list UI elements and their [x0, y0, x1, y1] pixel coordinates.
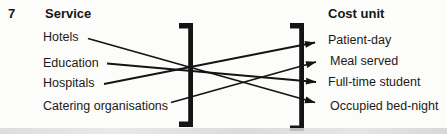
connection-line-hospitals — [104, 43, 315, 85]
connection-lines-group — [88, 39, 316, 103]
right-bracket — [290, 23, 304, 131]
service-item-hotels: Hotels — [43, 31, 78, 44]
cost-unit-item-meal-served: Meal served — [330, 55, 398, 68]
connection-line-education — [107, 64, 316, 83]
cost-unit-item-patient-day: Patient-day — [328, 34, 391, 47]
left-bracket — [179, 23, 193, 127]
service-item-education: Education — [43, 57, 99, 70]
cost-unit-column-header: Cost unit — [328, 7, 384, 21]
cost-unit-item-full-time-student: Full-time student — [328, 76, 420, 89]
service-item-catering-organisations: Catering organisations — [43, 100, 168, 113]
scan-artifact-strip — [0, 128, 447, 134]
matching-exercise-diagram: 7 Service Cost unit Hotels Education Hos… — [0, 0, 447, 134]
service-column-header: Service — [45, 7, 91, 21]
connection-line-hotels — [88, 39, 315, 103]
service-item-hospitals: Hospitals — [43, 77, 94, 90]
question-number: 7 — [8, 7, 15, 21]
cost-unit-item-occupied-bed-night: Occupied bed-night — [330, 100, 438, 113]
